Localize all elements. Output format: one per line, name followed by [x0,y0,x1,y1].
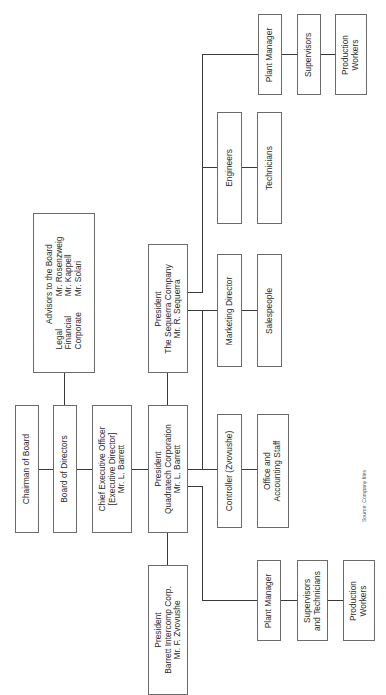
bottom-supervisors-label-2: and Technicians [313,571,323,631]
technicians-label: Technicians [265,146,275,190]
bottom-plant-manager-box: Plant Manager [257,560,281,641]
bottom-production-workers-box: Production Workers [343,560,375,641]
barrett-president-box: President Barrett Intercomp Corp. Mr. F.… [148,565,188,695]
board-label: Board of Directors [60,435,70,503]
advisor-name: Mr. Solari [74,237,84,297]
quadratech-president-box: President Quadratech Corporation Mr. L. … [148,405,188,533]
marketing-director-box: Marketing Director [217,254,242,367]
salespeople-box: Salespeople [257,254,282,367]
top-plant-manager-box: Plant Manager [258,14,282,95]
top-supervisors-label: Supervisors [304,32,314,76]
sequerra-president-box: President The Sequerra Company Mr. R. Se… [148,244,188,373]
salespeople-label: Salespeople [265,287,275,333]
connector-marketing-salespeople [241,310,257,311]
office-staff-label-2: Accounting Staff [273,441,283,502]
advisor-role: Corporate [74,312,84,349]
office-staff-box: Office and Accounting Staff [257,414,289,528]
marketing-director-label: Marketing Director [225,276,235,344]
chairman-label: Chairman of Board [22,434,32,504]
connector-quadratech-barrett [167,533,168,565]
connector-top-plant-supervisors [281,54,297,55]
bottom-supervisors-label: Supervisors [303,571,313,631]
technicians-box: Technicians [257,112,282,224]
top-production-workers-box: Production Workers [335,14,367,95]
connector-quadratech-sequerra [167,372,168,405]
connector-bottom-supervisors-workers [327,600,343,601]
connector-quadratech-lower-branch [187,486,202,487]
bottom-supervisors-box: Supervisors and Technicians [297,560,328,641]
connector-board-ceo [76,469,92,470]
connector-bottom-plant-supervisors [281,600,297,601]
connector-engineers-technicians [241,167,257,168]
connector-sequerra-upper-branch [187,292,202,293]
bottom-production-workers-label-2: Workers [359,580,369,620]
ceo-name: Mr. L. Barrett [117,426,127,511]
engineers-label: Engineers [225,149,235,187]
source-note: Source: Company files [361,470,367,522]
engineers-box: Engineers [217,112,242,224]
bottom-plant-manager-label: Plant Manager [264,573,274,627]
chairman-box: Chairman of Board [15,405,39,533]
connector-ceo-president [131,469,148,470]
connector-sequerra-upper-trunk [202,54,203,293]
barrett-name: Mr. F. Zvovushe [173,586,183,674]
quadratech-name: Mr. L. Barrett [173,424,183,514]
top-supervisors-box: Supervisors [297,14,321,95]
controller-box: Controller (Zvovushe) [217,414,242,528]
sequerra-name: Mr. R. Sequerra [173,264,183,353]
connector-to-controller [187,469,217,470]
connector-board-advisors [64,372,65,406]
connector-chairman-board [38,469,53,470]
controller-label: Controller (Zvovushe) [225,431,235,512]
connector-to-bottom-plant-manager [202,600,257,601]
connector-lower-trunk [202,486,203,601]
connector-controller-office [241,469,257,470]
connector-to-engineers [202,167,217,168]
board-box: Board of Directors [53,405,77,533]
connector-middle-trunk [202,310,203,470]
top-production-workers-label-2: Workers [351,34,361,74]
top-plant-manager-label: Plant Manager [265,27,275,81]
advisors-box: Advisors to the Board Legal Mr. Rosenzwe… [33,213,95,373]
connector-to-top-plant-manager [202,54,258,55]
ceo-box: Chief Executive Officer [Executive Direc… [92,405,132,533]
connector-top-supervisors-workers [320,54,335,55]
